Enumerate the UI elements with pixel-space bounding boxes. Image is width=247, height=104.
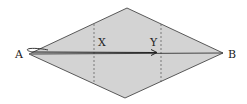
label-x: X (98, 36, 106, 49)
label-b: B (228, 48, 236, 61)
label-y: Y (149, 36, 158, 49)
label-a: A (14, 48, 24, 61)
arrow-shaft (33, 52, 157, 53)
rhombus-diagram: A B X Y (0, 0, 247, 104)
